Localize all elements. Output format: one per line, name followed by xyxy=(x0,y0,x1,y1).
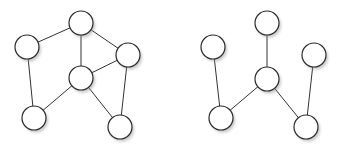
node-D xyxy=(69,66,93,90)
node-F xyxy=(294,115,318,139)
node-E xyxy=(209,106,233,130)
node-A xyxy=(69,11,93,35)
node-C xyxy=(116,43,140,67)
node-D xyxy=(255,67,279,91)
left-graph xyxy=(15,11,142,142)
node-B xyxy=(15,35,39,59)
node-B xyxy=(201,35,225,59)
node-A xyxy=(255,11,279,35)
graphs-layer xyxy=(15,11,328,142)
node-E xyxy=(22,106,46,130)
graph-diagram-canvas xyxy=(0,0,342,147)
node-F xyxy=(108,115,132,139)
right-graph xyxy=(201,11,328,142)
node-C xyxy=(302,43,326,67)
